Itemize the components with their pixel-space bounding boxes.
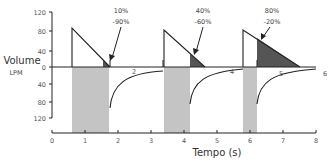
inline-tick-4: 4: [230, 68, 234, 76]
annotation-2-bottom: -60%: [195, 18, 212, 26]
y-tick-0: 0: [42, 64, 46, 72]
x-tick-5: 5: [215, 137, 219, 145]
y-axis-label: Volume: [3, 55, 40, 66]
inspiration-wave-2: [164, 30, 205, 67]
expiration-curve-3: [257, 69, 316, 104]
annotation-1-top: 10%: [114, 7, 128, 15]
arrowhead-icon: [109, 54, 115, 61]
y-tick-120: 120: [34, 9, 46, 17]
annotation-3-bottom: -20%: [264, 18, 281, 26]
y-tick-80: 80: [38, 28, 46, 36]
x-tick-8: 8: [314, 137, 318, 145]
flow-diagram: 120 80 40 0 40 80 120 Volume LPM 2 4 5 6…: [0, 0, 331, 161]
gray-bar-1: [72, 67, 109, 133]
annotation-2-top: 40%: [196, 7, 210, 15]
x-tick-3: 3: [149, 137, 153, 145]
x-tick-0: 0: [50, 137, 54, 145]
inline-tick-2: 2: [132, 68, 136, 76]
expiration-curve-2: [190, 69, 243, 104]
inline-tick-5: 5: [279, 70, 283, 78]
inspiration-wave-1: [72, 28, 110, 67]
expiration-curve-1: [110, 71, 163, 108]
x-axis-label: Tempo (s): [192, 147, 242, 158]
annotation-1-bottom: -90%: [113, 18, 130, 26]
y-tick-neg40: 40: [38, 81, 46, 89]
x-tick-7: 7: [281, 137, 285, 145]
y-tick-neg120: 120: [34, 115, 46, 123]
arrowhead-icon: [193, 48, 199, 55]
annotation-1-arrow: [112, 27, 121, 58]
x-tick-1: 1: [83, 137, 87, 145]
x-tick-6: 6: [248, 137, 252, 145]
gray-bar-3: [243, 67, 257, 133]
annotation-2-arrow: [196, 27, 203, 52]
gray-bar-2: [164, 67, 190, 133]
annotation-3-top: 80%: [265, 7, 279, 15]
x-tick-4: 4: [182, 137, 186, 145]
y-tick-neg80: 80: [38, 99, 46, 107]
y-axis-unit: LPM: [9, 69, 22, 77]
inline-tick-6: 6: [323, 70, 327, 78]
x-tick-2: 2: [116, 137, 120, 145]
